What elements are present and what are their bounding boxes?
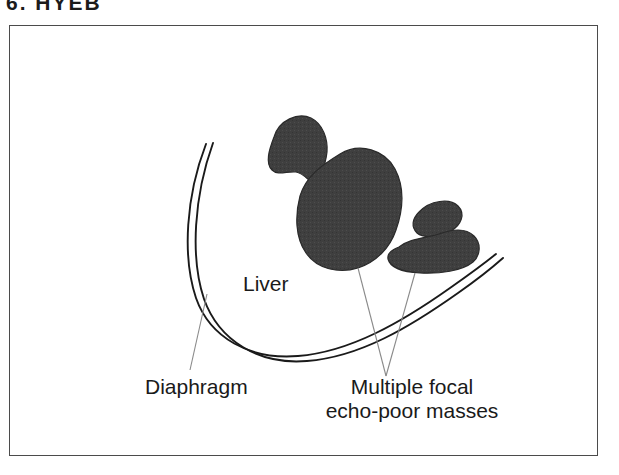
label-masses-line-1: Multiple focal xyxy=(351,375,474,398)
label-liver: Liver xyxy=(243,272,289,295)
figure-page: 6. HYEB xyxy=(0,0,619,475)
mass-right-lower xyxy=(388,230,479,273)
label-masses-line-2: echo-poor masses xyxy=(326,399,499,422)
illustration-frame: Liver Diaphragm Multiple focal echo-poor… xyxy=(9,25,598,456)
figure-caption: 6. HYEB xyxy=(6,0,266,17)
liver-ultrasound-diagram: Liver Diaphragm Multiple focal echo-poor… xyxy=(10,26,599,457)
label-diaphragm: Diaphragm xyxy=(145,375,248,398)
leader-line-mass-central xyxy=(358,268,386,376)
